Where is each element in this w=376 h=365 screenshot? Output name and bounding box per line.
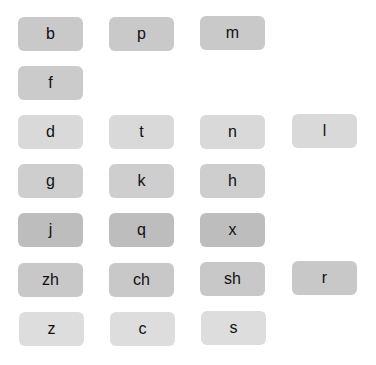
key-ch[interactable]: ch bbox=[109, 263, 174, 297]
key-sh[interactable]: sh bbox=[200, 262, 265, 296]
key-m[interactable]: m bbox=[200, 16, 265, 50]
key-d[interactable]: d bbox=[18, 115, 83, 149]
key-l[interactable]: l bbox=[292, 114, 357, 148]
key-c[interactable]: c bbox=[110, 312, 175, 346]
key-f[interactable]: f bbox=[18, 66, 83, 100]
key-p[interactable]: p bbox=[109, 17, 174, 51]
key-b[interactable]: b bbox=[18, 17, 83, 51]
key-t[interactable]: t bbox=[109, 115, 174, 149]
key-x[interactable]: x bbox=[200, 213, 265, 247]
key-k[interactable]: k bbox=[109, 164, 174, 198]
key-r[interactable]: r bbox=[292, 261, 357, 295]
key-n[interactable]: n bbox=[200, 115, 265, 149]
key-zh[interactable]: zh bbox=[18, 263, 83, 297]
key-g[interactable]: g bbox=[18, 164, 83, 198]
key-h[interactable]: h bbox=[200, 164, 265, 198]
key-j[interactable]: j bbox=[18, 213, 83, 247]
key-s[interactable]: s bbox=[201, 311, 266, 345]
key-q[interactable]: q bbox=[109, 213, 174, 247]
key-z[interactable]: z bbox=[19, 312, 84, 346]
